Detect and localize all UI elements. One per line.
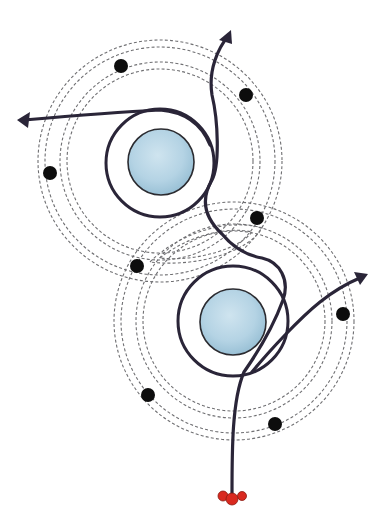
marker-dot (130, 259, 144, 273)
marker-dot (239, 88, 253, 102)
marker-dot (114, 59, 128, 73)
marker-dot (250, 211, 264, 225)
marker-dot (141, 388, 155, 402)
marker-dot (43, 166, 57, 180)
trajectory-diagram (0, 0, 382, 520)
right-branch-trajectory (252, 277, 362, 372)
lower-planet (200, 289, 266, 355)
arrow-up-head-icon (219, 30, 232, 44)
diagram-canvas (0, 0, 382, 520)
arrow-left-head-icon (17, 112, 30, 128)
marker-dot (336, 307, 350, 321)
start-point-icon (218, 491, 247, 505)
upper-planet (128, 129, 194, 195)
marker-dot (268, 417, 282, 431)
